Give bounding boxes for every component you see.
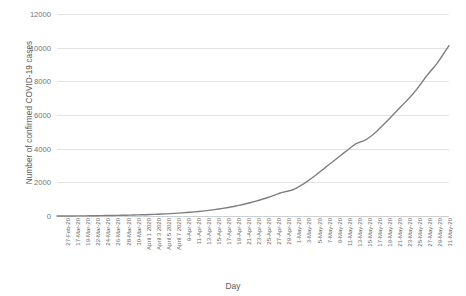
x-axis-tick-label: 5-May-20	[316, 218, 323, 243]
x-axis-tick-label: April 7 2020	[175, 218, 182, 250]
x-axis-tick-label: 23-Apr-20	[255, 218, 262, 245]
x-axis-tick-label: 7-May-20	[326, 218, 333, 243]
x-axis-title: Day	[0, 281, 466, 291]
x-axis-tick-label: April 1 2020	[145, 218, 152, 250]
x-axis-tick-label: 28-Mar-20	[125, 218, 132, 246]
x-axis-tick-label: 9-May-20	[336, 218, 343, 243]
x-axis-tick-label: 29-Apr-20	[285, 218, 292, 245]
x-axis-tick-label: 25-May-20	[416, 218, 423, 247]
x-axis-tick-label: 13-Apr-20	[205, 218, 212, 245]
x-axis-tick-label: 24-Mar-20	[104, 218, 111, 246]
y-axis-tick-label: 4000	[34, 144, 51, 153]
x-axis-tick-label: 27-Apr-20	[275, 218, 282, 245]
y-axis-tick-labels: 020004000600080001000012000	[0, 14, 55, 216]
y-axis-tick-label: 2000	[34, 178, 51, 187]
x-axis-tick-label: 11-Apr-20	[195, 218, 202, 244]
x-axis-tick-label: 19-May-20	[386, 218, 393, 247]
y-axis-tick-label: 0	[47, 212, 51, 221]
x-axis-tick-label: 15-Apr-20	[215, 218, 222, 245]
x-axis-tick-label: 22-Mar-20	[94, 218, 101, 246]
x-axis-tick-label: 29-May-20	[436, 218, 443, 247]
x-axis-tick-label: 21-Apr-20	[245, 218, 252, 245]
x-axis-tick-label: 13-May-20	[356, 218, 363, 247]
x-axis-tick-label: 31-May-20	[446, 218, 453, 247]
y-axis-tick-label: 6000	[34, 111, 51, 120]
y-axis-tick-label: 12000	[30, 10, 51, 19]
plot-area	[57, 14, 449, 216]
x-axis-tick-label: 30-Mar-20	[135, 218, 142, 246]
x-axis-tick-label: 1-May-20	[295, 218, 302, 243]
x-axis-tick-label: 27-May-20	[426, 218, 433, 247]
x-axis-tick-label: 19-Apr-20	[235, 218, 242, 245]
x-axis-tick-label: 15-May-20	[366, 218, 373, 247]
x-axis-tick-label: 21-May-20	[396, 218, 403, 247]
x-axis-tick-label: April 5 2020	[165, 218, 172, 250]
x-axis-tick-label: 25-Apr-20	[265, 218, 272, 245]
y-axis-tick-label: 10000	[30, 43, 51, 52]
x-axis-tick-label: 17-May-20	[376, 218, 383, 247]
x-axis-tick-label: 9-Apr-20	[185, 218, 192, 241]
x-axis-tick-label: 17-Mar-20	[74, 218, 81, 246]
x-axis-tick-label: 19-Mar-20	[84, 218, 91, 246]
y-axis-tick-label: 8000	[34, 77, 51, 86]
x-axis-tick-label: 27-Feb-20	[64, 218, 71, 246]
x-axis-tick-label: April 3 2020	[155, 218, 162, 250]
x-axis-tick-label: 17-Apr-20	[225, 218, 232, 245]
chart-container: Number of confirmed COVID-19 cases 02000…	[0, 0, 466, 296]
x-axis-tick-labels: 27-Feb-2017-Mar-2019-Mar-2022-Mar-2024-M…	[57, 218, 449, 280]
x-axis-tick-label: 11-May-20	[346, 218, 353, 246]
x-axis-tick-label: 23-May-20	[406, 218, 413, 247]
x-axis-tick-label: 3-May-20	[305, 218, 312, 243]
x-axis-tick-label: 26-Mar-20	[114, 218, 121, 246]
series-line	[57, 14, 449, 216]
